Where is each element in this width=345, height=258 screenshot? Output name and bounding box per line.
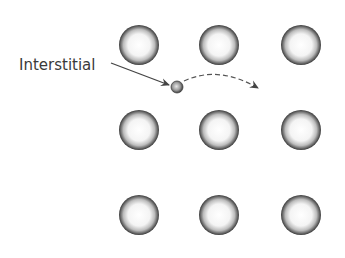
migration-arrow [184,74,258,88]
lattice-atoms [119,25,321,235]
lattice-atom [119,195,159,235]
pointer-arrow [111,63,169,85]
lattice-atom [119,110,159,150]
lattice-atom [281,110,321,150]
lattice-atom [199,110,239,150]
interstitial-atom [171,81,183,93]
lattice-atom [119,25,159,65]
interstitial-label: Interstitial [19,56,95,74]
lattice-atom [199,25,239,65]
lattice-atom [281,25,321,65]
lattice-atom [199,195,239,235]
lattice-atom [281,195,321,235]
interstitial-diagram: Interstitial [0,0,345,258]
